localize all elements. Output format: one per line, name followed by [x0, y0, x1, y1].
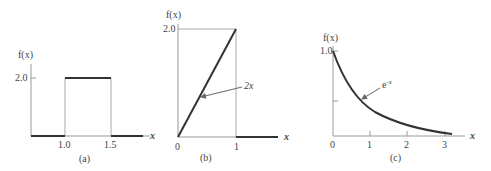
annotation-arrow-c — [362, 88, 380, 99]
panel-a: f(x) 2.0 1.0 1.5 x (a) — [15, 49, 155, 165]
panel-label-c: (c) — [390, 152, 401, 164]
ytick-label-c: 1.0 — [320, 45, 333, 56]
xtick-label-a1: 1.0 — [58, 139, 71, 150]
xtick-label-c3: 3 — [442, 139, 447, 150]
xtick-label-c0: 0 — [330, 139, 335, 150]
ytick-label-a: 2.0 — [15, 72, 28, 83]
annotation-b: 2x — [244, 80, 254, 91]
series-c — [333, 51, 452, 134]
xtick-label-a2: 1.5 — [104, 139, 117, 150]
ylabel-c: f(x) — [323, 32, 338, 44]
series-b — [178, 29, 278, 137]
xlabel-b: x — [283, 131, 289, 142]
ytick-label-b: 2.0 — [163, 23, 176, 34]
xtick-label-b0: 0 — [175, 141, 180, 152]
panel-c: f(x) 1.0 e-x 0 1 2 3 x (c) — [320, 32, 475, 164]
annotation-c: e-x — [382, 78, 393, 90]
xlabel-a: x — [149, 130, 155, 141]
xlabel-c: x — [469, 130, 475, 141]
panel-label-a: (a) — [79, 153, 90, 165]
series-a — [31, 78, 143, 136]
panel-label-b: (b) — [200, 152, 212, 164]
panel-b: f(x) 2.0 2x 0 1 x (b) — [163, 9, 289, 164]
ylabel-a: f(x) — [18, 49, 33, 61]
xtick-label-b1: 1 — [234, 141, 239, 152]
figure: f(x) 2.0 1.0 1.5 x (a) f(x) 2.0 2x 0 1 x… — [0, 0, 491, 171]
xtick-label-c2: 2 — [404, 139, 409, 150]
ylabel-b: f(x) — [166, 9, 181, 21]
xtick-label-c1: 1 — [367, 139, 372, 150]
